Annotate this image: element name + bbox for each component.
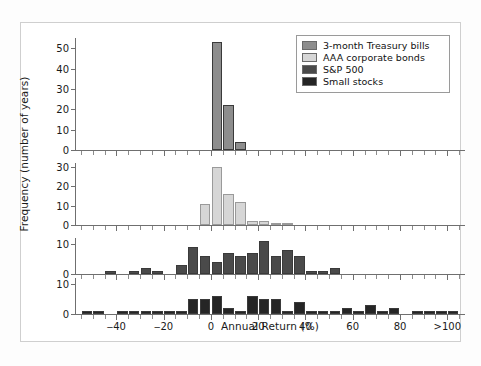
x-tick-minor xyxy=(317,151,318,155)
y-tick-label: 20 xyxy=(56,181,69,192)
histogram-bar xyxy=(353,311,364,314)
x-tick-minor xyxy=(388,151,389,155)
x-tick-label: ‒40 xyxy=(107,321,126,332)
x-tick-minor xyxy=(199,226,200,230)
x-tick-minor xyxy=(93,151,94,155)
x-tick-minor xyxy=(459,151,460,155)
y-tick-label: 10 xyxy=(56,239,69,250)
x-tick-major xyxy=(211,315,212,320)
y-tick xyxy=(71,109,75,110)
x-tick-major xyxy=(353,226,354,231)
histogram-bar xyxy=(82,311,93,314)
x-tick-major xyxy=(353,315,354,320)
x-tick-minor xyxy=(128,315,129,319)
x-tick-label: 0 xyxy=(208,321,214,332)
y-tick xyxy=(71,225,75,226)
y-tick xyxy=(71,69,75,70)
histogram-bar xyxy=(141,268,152,274)
x-tick-major xyxy=(353,151,354,156)
y-tick xyxy=(71,314,75,315)
histogram-bar xyxy=(377,311,388,314)
histogram-bar xyxy=(212,167,223,225)
histogram-bar xyxy=(448,311,459,314)
y-tick-label: 30 xyxy=(56,161,69,172)
x-tick-minor xyxy=(81,151,82,155)
histogram-bar xyxy=(212,296,223,314)
histogram-bar xyxy=(176,311,187,314)
x-tick-minor xyxy=(341,315,342,319)
histogram-bar xyxy=(152,271,163,274)
legend-label: Small stocks xyxy=(323,76,383,87)
y-tick-label: 0 xyxy=(63,309,69,320)
histogram-bar xyxy=(212,42,223,150)
x-tick-minor xyxy=(223,226,224,230)
x-tick-minor xyxy=(187,226,188,230)
y-tick xyxy=(71,167,75,168)
x-tick-minor xyxy=(128,226,129,230)
histogram-bar xyxy=(412,311,423,314)
x-tick-major xyxy=(116,151,117,156)
histogram-bar xyxy=(105,271,116,274)
legend-label: AAA corporate bonds xyxy=(323,52,425,63)
legend-item-3[interactable]: Small stocks xyxy=(302,76,444,87)
y-tick-label: 20 xyxy=(56,104,69,115)
x-tick-minor xyxy=(270,315,271,319)
x-tick-minor xyxy=(282,315,283,319)
y-tick-label: 10 xyxy=(56,279,69,290)
x-tick-minor xyxy=(424,226,425,230)
histogram-bar xyxy=(259,299,270,314)
legend-item-2[interactable]: S&P 500 xyxy=(302,64,444,75)
chart-legend: 3-month Treasury billsAAA corporate bond… xyxy=(296,35,450,93)
x-tick-minor xyxy=(435,151,436,155)
histogram-bar xyxy=(318,271,329,274)
x-tick-minor xyxy=(412,315,413,319)
x-tick-minor xyxy=(81,226,82,230)
x-tick-major xyxy=(400,151,401,156)
y-tick xyxy=(71,244,75,245)
x-tick-minor xyxy=(376,151,377,155)
histogram-bar xyxy=(389,308,400,314)
histogram-bar xyxy=(200,204,211,225)
legend-label: S&P 500 xyxy=(323,64,364,75)
histogram-bar xyxy=(223,253,234,274)
x-tick-major xyxy=(305,315,306,320)
x-tick-minor xyxy=(388,315,389,319)
x-tick-minor xyxy=(317,226,318,230)
figure-container: Frequency (number of years) Annual Retur… xyxy=(0,0,481,366)
x-tick-minor xyxy=(459,226,460,230)
x-tick-major xyxy=(447,151,448,156)
x-tick-minor xyxy=(376,226,377,230)
x-tick-minor xyxy=(187,151,188,155)
histogram-bar xyxy=(141,311,152,314)
y-tick xyxy=(71,48,75,49)
x-tick-major xyxy=(400,315,401,320)
y-tick xyxy=(71,186,75,187)
histogram-bar xyxy=(93,311,104,314)
chart-plot-area: Frequency (number of years) Annual Retur… xyxy=(0,0,481,366)
x-tick-minor xyxy=(105,226,106,230)
legend-item-0[interactable]: 3-month Treasury bills xyxy=(302,40,444,51)
histogram-bar xyxy=(235,142,246,150)
x-tick-minor xyxy=(435,226,436,230)
x-tick-minor xyxy=(235,226,236,230)
histogram-bar xyxy=(247,221,258,225)
x-tick-major xyxy=(258,151,259,156)
histogram-bar xyxy=(271,299,282,314)
x-tick-major xyxy=(164,226,165,231)
x-tick-minor xyxy=(140,226,141,230)
histogram-bar xyxy=(235,256,246,274)
histogram-bar xyxy=(424,311,435,314)
x-tick-minor xyxy=(175,226,176,230)
histogram-bar xyxy=(436,311,447,314)
histogram-bar xyxy=(318,311,329,314)
x-tick-minor xyxy=(294,315,295,319)
x-tick-minor xyxy=(294,226,295,230)
legend-label: 3-month Treasury bills xyxy=(323,40,430,51)
legend-item-1[interactable]: AAA corporate bonds xyxy=(302,52,444,63)
x-tick-minor xyxy=(365,151,366,155)
x-tick-major xyxy=(447,315,448,320)
x-tick-minor xyxy=(376,315,377,319)
x-tick-minor xyxy=(365,315,366,319)
histogram-bar xyxy=(259,221,270,225)
histogram-bar xyxy=(188,299,199,314)
